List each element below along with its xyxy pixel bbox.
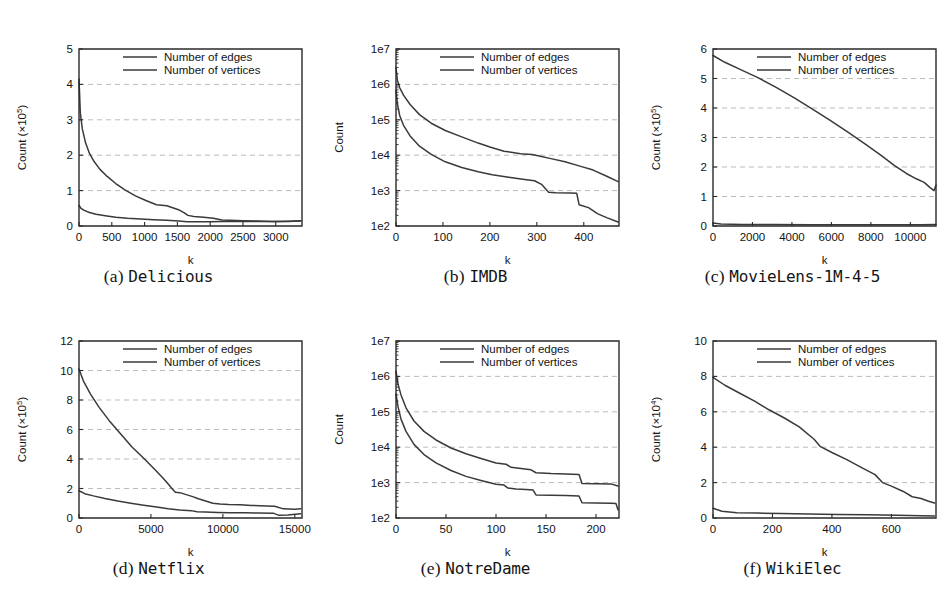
y-tick-label: 2 bbox=[67, 149, 73, 161]
panel-caption-index-f: (f) bbox=[743, 558, 766, 578]
legend-a: Number of edgesNumber of vertices bbox=[123, 51, 261, 76]
series-line-vertices bbox=[713, 223, 936, 225]
legend-label-vertices: Number of vertices bbox=[798, 64, 895, 76]
gridlines-d bbox=[79, 371, 302, 489]
panel-caption-name-f: WikiElec bbox=[766, 559, 841, 578]
legend-e: Number of edgesNumber of vertices bbox=[440, 343, 578, 368]
panel-b: 01002003004001e21e31e41e51e61e7kCountNum… bbox=[317, 8, 634, 316]
panel-caption-index-a: (a) bbox=[104, 266, 129, 286]
legend-label-edges: Number of edges bbox=[481, 343, 569, 355]
series-line-edges bbox=[79, 79, 301, 221]
legend-label-vertices: Number of vertices bbox=[164, 356, 261, 368]
panel-caption-index-c: (c) bbox=[705, 266, 730, 286]
series-line-vertices bbox=[79, 205, 301, 221]
y-tick-label: 1e2 bbox=[371, 220, 390, 232]
y-tick-label: 0 bbox=[701, 220, 707, 232]
x-tick-label: 100 bbox=[486, 523, 505, 535]
y-tick-label: 1e7 bbox=[371, 43, 390, 55]
x-tick-label: 3000 bbox=[263, 231, 289, 243]
x-tick-label: 500 bbox=[102, 231, 121, 243]
y-tick-label: 2 bbox=[701, 477, 707, 489]
y-tick-label: 4 bbox=[701, 102, 708, 114]
y-tick-label: 1 bbox=[701, 191, 707, 203]
legend-label-vertices: Number of vertices bbox=[481, 64, 578, 76]
y-tick-label: 4 bbox=[701, 441, 708, 453]
panel-caption-name-a: Delicious bbox=[128, 267, 213, 286]
plot-d: 050001000015000024681012kCount (×105)Num… bbox=[0, 300, 317, 562]
x-tick-label: 2000 bbox=[197, 231, 223, 243]
series-group-a bbox=[79, 79, 301, 222]
y-axis-label: Count (×104) bbox=[649, 397, 662, 463]
legend-c: Number of edgesNumber of vertices bbox=[757, 51, 895, 76]
y-axis-label: Count (×105) bbox=[15, 105, 28, 171]
series-group-d bbox=[79, 369, 301, 515]
y-tick-label: 8 bbox=[701, 370, 707, 382]
x-axis-label: k bbox=[822, 546, 828, 558]
series-group-b bbox=[396, 68, 618, 222]
x-tick-label: 2500 bbox=[230, 231, 256, 243]
legend-label-vertices: Number of vertices bbox=[164, 64, 261, 76]
y-tick-label: 4 bbox=[67, 453, 74, 465]
y-tick-label: 1e4 bbox=[371, 149, 391, 161]
panel-a: 050010001500200025003000012345kCount (×1… bbox=[0, 8, 317, 316]
series-line-edges bbox=[396, 371, 618, 486]
x-tick-label: 4000 bbox=[779, 231, 805, 243]
x-tick-label: 5000 bbox=[138, 523, 164, 535]
y-tick-label: 8 bbox=[67, 394, 73, 406]
plot-area-a: 050010001500200025003000012345kCount (×1… bbox=[0, 8, 317, 270]
y-axis-label: Count (×105) bbox=[649, 105, 662, 171]
panel-caption-name-d: Netflix bbox=[138, 559, 204, 578]
y-tick-label: 0 bbox=[67, 220, 73, 232]
series-line-vertices bbox=[396, 394, 618, 510]
y-tick-label: 10 bbox=[694, 335, 707, 347]
x-axis-label: k bbox=[822, 254, 828, 266]
legend-label-vertices: Number of vertices bbox=[481, 356, 578, 368]
legend-b: Number of edgesNumber of vertices bbox=[440, 51, 578, 76]
x-tick-label: 200 bbox=[586, 523, 605, 535]
series-group-c bbox=[713, 55, 936, 224]
x-tick-label: 0 bbox=[76, 231, 82, 243]
legend-label-edges: Number of edges bbox=[798, 51, 886, 63]
y-tick-label: 2 bbox=[701, 161, 707, 173]
panel-caption-name-b: IMDB bbox=[469, 267, 507, 286]
y-tick-label: 2 bbox=[67, 483, 73, 495]
y-tick-label: 1e4 bbox=[371, 441, 391, 453]
y-tick-label: 5 bbox=[67, 43, 73, 55]
panel-caption-name-c: MovieLens-1M-4-5 bbox=[729, 267, 880, 286]
gridlines-e bbox=[396, 376, 619, 482]
panel-f: 02004006000246810kCount (×104)Number of … bbox=[634, 300, 951, 608]
legend-label-vertices: Number of vertices bbox=[798, 356, 895, 368]
panel-caption-index-b: (b) bbox=[444, 266, 470, 286]
x-tick-label: 1500 bbox=[165, 231, 191, 243]
panel-caption-f: (f) WikiElec bbox=[634, 558, 951, 579]
plot-a: 050010001500200025003000012345kCount (×1… bbox=[0, 8, 317, 270]
x-tick-label: 150 bbox=[536, 523, 555, 535]
panel-e: 0501001502001e21e31e41e51e61e7kCountNumb… bbox=[317, 300, 634, 608]
y-tick-label: 6 bbox=[701, 43, 707, 55]
series-group-f bbox=[713, 377, 935, 516]
y-tick-label: 3 bbox=[701, 132, 707, 144]
plot-c: 02000400060008000100000123456kCount (×10… bbox=[634, 8, 951, 270]
y-tick-label: 3 bbox=[67, 114, 73, 126]
panel-caption-e: (e) NotreDame bbox=[317, 558, 634, 579]
panel-c: 02000400060008000100000123456kCount (×10… bbox=[634, 8, 951, 316]
x-tick-label: 600 bbox=[882, 523, 901, 535]
y-tick-label: 0 bbox=[67, 512, 73, 524]
y-tick-label: 6 bbox=[67, 424, 73, 436]
y-tick-label: 1e6 bbox=[371, 78, 390, 90]
x-axis-label: k bbox=[188, 254, 194, 266]
figure-six-panel-chart-grid: 050010001500200025003000012345kCount (×1… bbox=[0, 0, 951, 616]
series-line-edges bbox=[79, 369, 301, 509]
panel-caption-index-e: (e) bbox=[421, 558, 446, 578]
x-tick-label: 200 bbox=[763, 523, 782, 535]
panel-caption-a: (a) Delicious bbox=[0, 266, 317, 287]
x-tick-label: 0 bbox=[393, 523, 399, 535]
y-tick-label: 1e7 bbox=[371, 335, 390, 347]
legend-label-edges: Number of edges bbox=[481, 51, 569, 63]
y-axis-label: Count (×105) bbox=[15, 397, 28, 463]
gridlines-c bbox=[713, 79, 936, 197]
x-tick-label: 100 bbox=[433, 231, 452, 243]
plot-b: 01002003004001e21e31e41e51e61e7kCountNum… bbox=[317, 8, 634, 270]
y-axis-label: Count bbox=[333, 121, 345, 152]
y-tick-label: 1e3 bbox=[371, 477, 390, 489]
